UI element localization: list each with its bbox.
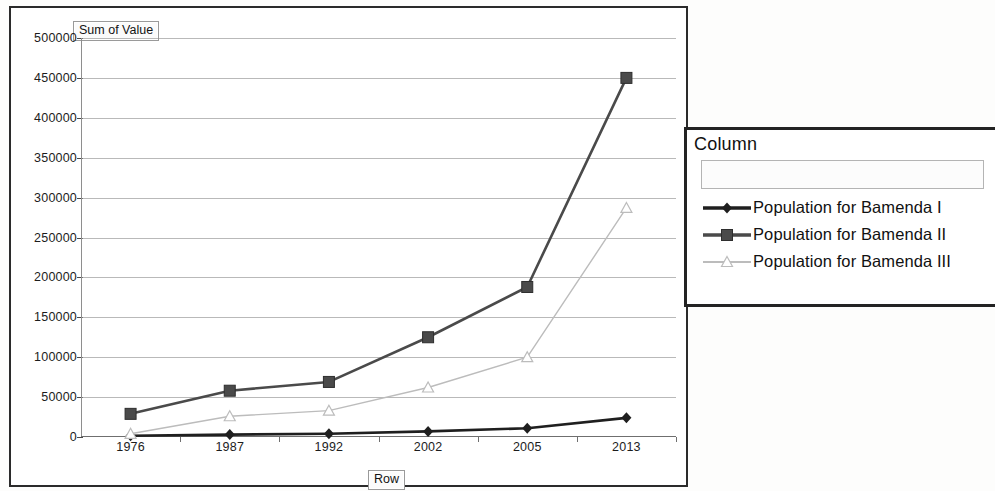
legend-item[interactable]: Population for Bamenda I: [701, 194, 991, 221]
series-line: [131, 208, 627, 434]
row-field-button[interactable]: Row: [368, 470, 405, 490]
pivot-chart-frame: Sum of Value 050000100000150000200000250…: [9, 6, 688, 487]
legend-item-list: Population for Bamenda IPopulation for B…: [701, 194, 991, 275]
legend-item-label: Population for Bamenda I: [753, 198, 942, 217]
diamond-marker-icon: [701, 199, 753, 217]
y-axis-tick-label: 450000: [13, 71, 77, 85]
y-axis-tick-label: 200000: [13, 270, 77, 284]
legend-title-box[interactable]: [701, 160, 984, 189]
legend-item-label: Population for Bamenda II: [753, 225, 946, 244]
square-marker-icon: [323, 376, 334, 387]
y-axis-tick-label: 250000: [13, 231, 77, 245]
legend-item[interactable]: Population for Bamenda II: [701, 221, 991, 248]
diamond-marker-icon: [722, 202, 732, 213]
legend-title: Column: [694, 134, 757, 155]
y-axis-tick-label: 0: [13, 430, 77, 444]
square-marker-icon: [522, 281, 533, 292]
square-marker-icon: [621, 72, 632, 83]
legend-item-label: Population for Bamenda III: [753, 252, 951, 271]
y-axis-tick-label: 50000: [13, 390, 77, 404]
x-axis-tick-label: 2002: [414, 440, 443, 454]
square-marker-icon: [224, 385, 235, 396]
y-axis-tick-label: 500000: [13, 31, 77, 45]
square-marker-icon: [423, 332, 434, 343]
y-axis-tick-label: 150000: [13, 310, 77, 324]
y-axis-labels: 0500001000001500002000002500003000003500…: [11, 38, 77, 437]
plot-area: [81, 38, 676, 437]
square-marker-icon: [701, 226, 753, 244]
x-axis-tick: [676, 437, 677, 442]
x-axis-tick-label: 2005: [513, 440, 542, 454]
x-axis-labels: 197619871992200220052013: [81, 440, 676, 462]
diamond-marker-icon: [522, 423, 532, 434]
series-line: [131, 78, 627, 414]
triangle-marker-icon: [701, 253, 753, 271]
diamond-marker-icon: [621, 412, 631, 423]
y-axis-tick-label: 100000: [13, 350, 77, 364]
square-marker-icon: [722, 229, 733, 240]
x-axis-tick-label: 1976: [116, 440, 145, 454]
y-axis-tick-label: 300000: [13, 191, 77, 205]
x-axis-tick-label: 2013: [612, 440, 641, 454]
series-lines: [81, 38, 676, 437]
triangle-marker-icon: [522, 352, 533, 362]
x-axis-tick-label: 1987: [215, 440, 244, 454]
square-marker-icon: [125, 408, 136, 419]
triangle-marker-icon: [621, 202, 632, 212]
legend-item[interactable]: Population for Bamenda III: [701, 248, 991, 275]
legend-panel: Column Population for Bamenda IPopulatio…: [684, 127, 995, 307]
x-axis-tick-label: 1992: [315, 440, 344, 454]
screenshot-root: Sum of Value 050000100000150000200000250…: [0, 0, 995, 491]
y-axis-tick-label: 400000: [13, 111, 77, 125]
y-axis-tick-label: 350000: [13, 151, 77, 165]
diamond-marker-icon: [423, 426, 433, 437]
